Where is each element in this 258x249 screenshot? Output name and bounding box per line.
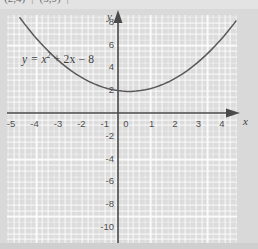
equation-rhs: + 2x − 8 xyxy=(51,53,95,65)
page-bottom-margin xyxy=(0,243,258,249)
x-tick-label: 1 xyxy=(149,119,154,129)
y-tick-label: -4 xyxy=(101,154,114,164)
answer-choices-strip: | (2,4) | (3,9) | xyxy=(0,0,258,9)
plot-svg xyxy=(0,9,258,249)
x-tick-label: -3 xyxy=(54,119,62,129)
y-tick-label: -6 xyxy=(101,177,114,187)
y-tick-label: 2 xyxy=(104,85,114,95)
y-tick-label: -10 xyxy=(96,222,114,232)
choice-separator-mid: | xyxy=(31,0,33,4)
x-tick-label: -5 xyxy=(7,119,15,129)
graph-screenshot: | (2,4) | (3,9) | y = x2 + 2x − 8 xyxy=(0,0,258,249)
y-axis-label: y xyxy=(107,11,112,22)
x-tick-label: -1 xyxy=(101,119,109,129)
x-axis xyxy=(7,109,240,118)
answer-choice-2[interactable]: (3,9) xyxy=(39,0,60,4)
origin-tick-label: 0 xyxy=(123,119,128,129)
equation-annotation: y = x2 + 2x − 8 xyxy=(22,51,94,65)
x-tick-label: 2 xyxy=(172,119,177,129)
y-tick-label: 4 xyxy=(104,63,114,73)
y-tick-label: -8 xyxy=(101,199,114,209)
y-tick-label: -2 xyxy=(101,131,114,141)
answer-choice-1[interactable]: (2,4) xyxy=(4,0,25,4)
y-axis xyxy=(114,10,123,245)
x-tick-label: 4 xyxy=(219,119,224,129)
x-axis-label: x xyxy=(243,116,248,127)
choice-separator-right: | xyxy=(67,0,69,4)
y-tick-label: 6 xyxy=(104,40,114,50)
x-tick-label: 3 xyxy=(196,119,201,129)
parabola-graph: y = x2 + 2x − 8 -5 -4 -3 -2 -1 0 1 2 3 4… xyxy=(0,9,258,249)
x-tick-label: -4 xyxy=(30,119,38,129)
equation-lhs: y = x xyxy=(22,53,47,65)
x-tick-label: -2 xyxy=(77,119,85,129)
answer-choices-row: | (2,4) | (3,9) | xyxy=(0,0,69,4)
